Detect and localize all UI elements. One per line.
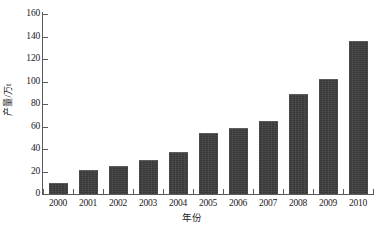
x-axis-tick xyxy=(43,189,44,194)
y-axis-tick xyxy=(43,149,48,150)
x-axis-tick xyxy=(313,189,314,194)
x-axis-tick xyxy=(193,189,194,194)
y-axis-tick xyxy=(43,172,48,173)
y-axis-tick-label: 140 xyxy=(2,32,40,42)
y-axis-tick-label: 20 xyxy=(2,167,40,177)
bar xyxy=(289,94,308,194)
bar xyxy=(169,152,188,194)
x-axis-tick xyxy=(103,189,104,194)
bar xyxy=(319,79,338,194)
bar xyxy=(259,121,278,194)
x-axis-tick xyxy=(373,189,374,194)
x-axis-tick xyxy=(163,189,164,194)
y-axis-tick-label: 160 xyxy=(2,9,40,19)
bar xyxy=(109,166,128,194)
y-axis-tick xyxy=(43,37,48,38)
plot-area xyxy=(43,14,373,194)
x-axis-tick-label: 2010 xyxy=(338,198,378,209)
x-axis-tick xyxy=(283,189,284,194)
y-axis-tick xyxy=(43,127,48,128)
x-axis-tick xyxy=(73,189,74,194)
x-axis-tick xyxy=(343,189,344,194)
y-axis-tick xyxy=(43,104,48,105)
bar xyxy=(349,41,368,194)
x-axis-tick xyxy=(133,189,134,194)
x-axis-tick xyxy=(253,189,254,194)
x-axis-tick xyxy=(223,189,224,194)
bar xyxy=(229,128,248,194)
bar xyxy=(139,160,158,194)
y-axis-tick xyxy=(43,59,48,60)
bar xyxy=(49,183,68,194)
y-axis-tick xyxy=(43,14,48,15)
y-axis-tick xyxy=(43,194,48,195)
y-axis-tick-label: 120 xyxy=(2,54,40,64)
y-axis-tick-label: 40 xyxy=(2,144,40,154)
bar-chart: 020406080100120140160 产量/万t 年份 200020012… xyxy=(0,0,383,235)
bar xyxy=(79,170,98,194)
x-axis-line xyxy=(42,194,374,195)
x-axis-title: 年份 xyxy=(0,213,383,224)
y-axis-tick xyxy=(43,82,48,83)
bar xyxy=(199,133,218,194)
y-axis-title: 产量/万t xyxy=(4,68,13,132)
y-axis-tick-label: 0 xyxy=(2,189,40,199)
